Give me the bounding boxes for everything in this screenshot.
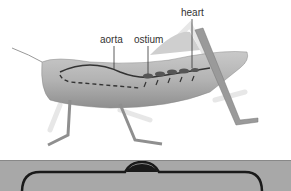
label-heart: heart	[181, 8, 204, 18]
grasshopper-diagram: aorta ostium heart	[0, 0, 291, 160]
panel-outline	[0, 161, 291, 191]
label-ostium: ostium	[134, 35, 163, 45]
grasshopper-illustration	[0, 0, 291, 160]
label-aorta: aorta	[100, 35, 123, 45]
bottom-panel	[0, 160, 291, 191]
